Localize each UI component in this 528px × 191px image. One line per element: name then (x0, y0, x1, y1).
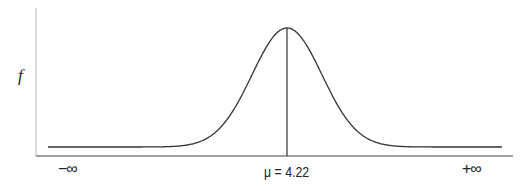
bell-curve (48, 28, 502, 147)
normal-distribution-chart (0, 0, 528, 191)
x-tick-positive-infinity: +∞ (462, 160, 481, 178)
y-axis-label: f (18, 66, 23, 86)
x-tick-mean: μ = 4.22 (264, 164, 309, 180)
x-tick-negative-infinity: −∞ (58, 160, 77, 178)
